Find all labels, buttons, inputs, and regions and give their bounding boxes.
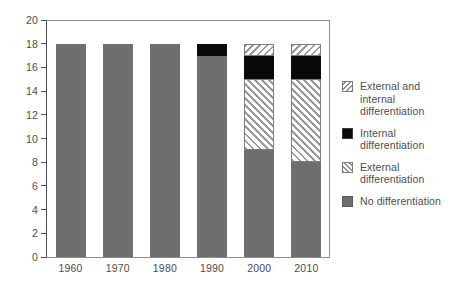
y-axis-tick-mark [41, 185, 46, 186]
y-axis-tick: 8 [0, 156, 46, 168]
chart-legend: External and internal differentiationInt… [342, 80, 450, 216]
y-axis-tick: 14 [0, 85, 46, 97]
bar-segment-no-differentiation [291, 162, 321, 257]
y-axis-tick: 4 [0, 204, 46, 216]
bar-segment-no-differentiation [150, 44, 180, 257]
solid-gray-swatch [342, 196, 353, 207]
y-axis-tick: 2 [0, 227, 46, 239]
x-axis-tick-label: 1960 [47, 262, 94, 274]
x-axis: 196019701980199020002010 [47, 262, 330, 280]
y-axis-tick: 20 [0, 14, 46, 26]
legend-item-label: External differentiation [360, 161, 450, 186]
bar-segment-external-and-internal-differentiation [291, 44, 321, 56]
hatch-slash-swatch [342, 162, 353, 173]
x-axis-tick-label: 2010 [283, 262, 330, 274]
y-axis-tick: 16 [0, 61, 46, 73]
bar-1980[interactable] [150, 44, 180, 257]
legend-item[interactable]: External differentiation [342, 161, 450, 186]
bars-layer [47, 20, 330, 257]
solid-black-swatch [342, 128, 353, 139]
bar-segment-internal-differentiation [291, 56, 321, 80]
legend-item[interactable]: No differentiation [342, 195, 450, 208]
bar-segment-external-differentiation [291, 79, 321, 162]
legend-item-label: No differentiation [360, 195, 441, 208]
y-axis-tick-mark [41, 114, 46, 115]
bar-2010[interactable] [291, 44, 321, 257]
legend-item[interactable]: External and internal differentiation [342, 80, 450, 118]
bar-segment-external-differentiation [244, 79, 274, 150]
bar-segment-no-differentiation [103, 44, 133, 257]
y-axis-tick-mark [41, 43, 46, 44]
bar-segment-external-and-internal-differentiation [244, 44, 274, 56]
bar-1960[interactable] [56, 44, 86, 257]
bar-1970[interactable] [103, 44, 133, 257]
y-axis-tick-mark [41, 257, 46, 258]
legend-item-label: Internal differentiation [360, 127, 450, 152]
y-axis-tick-mark [41, 20, 46, 21]
legend-item-label: External and internal differentiation [360, 80, 450, 118]
y-axis-tick: 18 [0, 38, 46, 50]
bar-segment-no-differentiation [197, 56, 227, 257]
x-axis-tick-label: 2000 [236, 262, 283, 274]
y-axis-tick: 0 [0, 251, 46, 263]
y-axis-tick-mark [41, 162, 46, 163]
bar-segment-internal-differentiation [197, 44, 227, 56]
y-axis: 02468101214161820 [0, 20, 46, 258]
x-axis-tick-label: 1990 [189, 262, 236, 274]
x-axis-tick-label: 1970 [94, 262, 141, 274]
y-axis-tick: 6 [0, 180, 46, 192]
bar-segment-no-differentiation [56, 44, 86, 257]
legend-item[interactable]: Internal differentiation [342, 127, 450, 152]
bar-2000[interactable] [244, 44, 274, 257]
bar-segment-no-differentiation [244, 150, 274, 257]
y-axis-tick-mark [41, 91, 46, 92]
bar-1990[interactable] [197, 44, 227, 257]
bar-segment-internal-differentiation [244, 56, 274, 80]
y-axis-tick-mark [41, 209, 46, 210]
x-axis-tick-label: 1980 [141, 262, 188, 274]
y-axis-tick-mark [41, 233, 46, 234]
hatch-backslash-swatch [342, 81, 353, 92]
y-axis-tick-mark [41, 138, 46, 139]
stacked-bar-chart-figure: 02468101214161820 1960197019801990200020… [0, 0, 452, 292]
y-axis-tick: 12 [0, 109, 46, 121]
y-axis-tick: 10 [0, 133, 46, 145]
y-axis-tick-mark [41, 67, 46, 68]
